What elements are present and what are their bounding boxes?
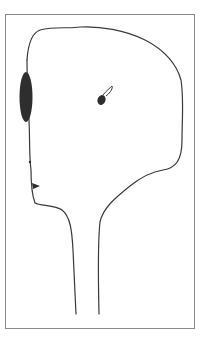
head-outline xyxy=(27,27,183,314)
ear-loop xyxy=(103,86,112,96)
left-dark-ellipse xyxy=(20,72,33,122)
head-drawing xyxy=(0,0,207,344)
drawing-canvas xyxy=(0,0,207,344)
small-dot xyxy=(29,161,31,163)
ear-mark xyxy=(96,94,107,106)
nose-mark xyxy=(32,183,40,189)
